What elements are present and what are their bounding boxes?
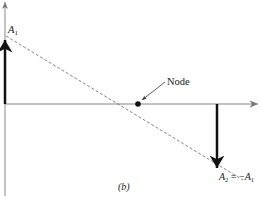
standing-wave-node-diagram: Node A1 A2 = −A1 (b) [0, 0, 260, 199]
figure-caption: (b) [118, 181, 130, 193]
amplitude-a2-label: A2 = −A1 [218, 171, 254, 183]
node-label: Node [167, 76, 190, 87]
dashed-amplitude-line [6, 36, 243, 180]
node-leader-arrow [142, 82, 165, 100]
amplitude-a1-label: A1 [7, 24, 18, 37]
node-point [135, 101, 141, 107]
